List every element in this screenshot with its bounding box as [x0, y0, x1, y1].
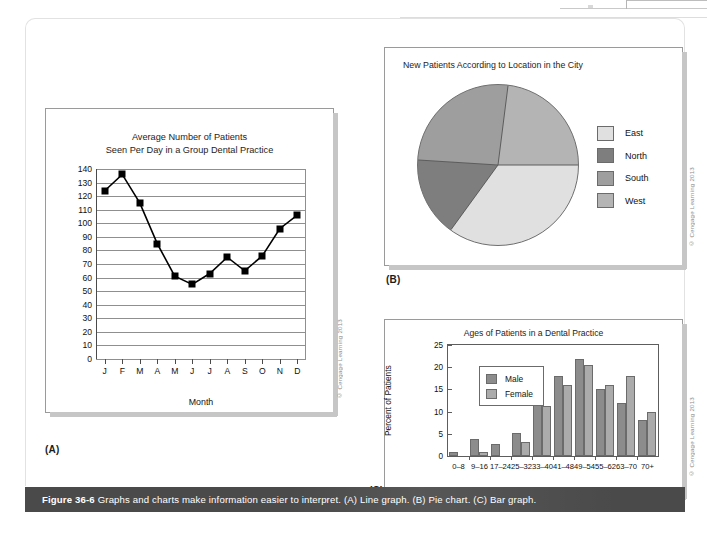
line-graph-x-label: J	[190, 366, 194, 376]
fragment-divider	[626, 0, 627, 9]
line-graph-y-tick: 130	[78, 178, 92, 188]
pie-legend-swatch	[597, 171, 614, 186]
bar-group	[638, 412, 656, 456]
line-graph-x-label: F	[120, 366, 125, 376]
figure-caption-text: Figure 36-6 Graphs and charts make infor…	[25, 494, 536, 505]
bar-group	[512, 433, 530, 456]
bar	[491, 444, 500, 456]
bar-chart-x-tickmark	[595, 456, 596, 460]
line-graph-x-label: A	[224, 366, 230, 376]
line-graph-data-point	[101, 187, 108, 194]
pie-chart-title: New Patients According to Location in th…	[403, 60, 583, 70]
panel-b-label: (B)	[386, 274, 400, 285]
line-graph-x-tick	[227, 359, 228, 364]
line-graph-y-tick: 0	[87, 354, 92, 364]
bar-chart-y-axis-label: Percent of Patients	[379, 344, 397, 457]
line-graph-data-point	[294, 212, 301, 219]
bar-chart-x-label: 70+	[641, 462, 654, 471]
bar-chart-x-label: 17–24	[490, 462, 511, 471]
line-graph-data-point	[154, 240, 161, 247]
line-graph-y-tick: 100	[78, 218, 92, 228]
bar-chart-y-tick: 15	[434, 385, 443, 394]
bar-chart-y-tick: 20	[434, 363, 443, 372]
bar-chart-title: Ages of Patients in a Dental Practice	[385, 328, 682, 338]
line-graph-y-tick: 70	[82, 259, 92, 269]
bar-chart-y-tickmark	[448, 345, 452, 346]
line-graph-y-tick: 140	[78, 164, 92, 174]
line-graph-y-tick: 40	[82, 300, 92, 310]
bar-legend-swatch	[486, 374, 497, 384]
bar-chart-x-tickmark	[574, 456, 575, 460]
bar-chart-x-tickmark	[469, 456, 470, 460]
line-graph-data-point	[224, 254, 231, 261]
pie-chart-graphic	[417, 84, 579, 246]
pie-legend-label: North	[625, 151, 647, 161]
figure-number: Figure 36-6	[42, 494, 95, 505]
bar-group	[617, 376, 635, 456]
page-above-fragment	[520, 0, 707, 14]
bar-chart-x-tickmark	[511, 456, 512, 460]
bar-group	[449, 452, 467, 456]
pie-legend-item: East	[597, 122, 649, 145]
line-graph-data-point	[206, 270, 213, 277]
line-graph-x-label: O	[259, 366, 266, 376]
bar-chart-legend: MaleFemale	[479, 366, 544, 406]
pie-legend-swatch	[597, 126, 614, 141]
panel-a-label: (A)	[45, 444, 59, 455]
line-graph-data-point	[259, 252, 266, 259]
line-graph-x-label: M	[171, 366, 178, 376]
bar	[575, 359, 584, 456]
bar-group	[470, 439, 488, 456]
copyright-bar-chart: © Cengage Learning 2013	[688, 397, 695, 477]
pie-chart-slice-dividers	[417, 84, 579, 246]
bar-chart-x-tickmark	[616, 456, 617, 460]
figure-caption-body: Graphs and charts make information easie…	[98, 494, 537, 505]
bar-chart-x-tickmark	[637, 456, 638, 460]
line-graph-x-tick	[157, 359, 158, 364]
bar-chart-x-label: 49–54	[574, 462, 595, 471]
line-graph-data-point	[189, 281, 196, 288]
line-graph-data-point	[241, 267, 248, 274]
bar	[470, 439, 479, 456]
bar-chart-y-tickmark	[448, 367, 452, 368]
bar	[647, 412, 656, 456]
bar-legend-label: Male	[505, 374, 523, 384]
line-graph-y-tick: 110	[78, 205, 92, 215]
bar	[479, 452, 488, 456]
line-graph-x-tick	[245, 359, 246, 364]
bar-chart-y-tickmark	[448, 412, 452, 413]
line-graph-x-tick	[105, 359, 106, 364]
pie-legend-item: West	[597, 190, 649, 213]
line-graph-y-tick: 20	[82, 327, 92, 337]
bar	[554, 376, 563, 456]
bar-chart-y-tick: 10	[434, 407, 443, 416]
line-graph-gridline	[96, 359, 306, 360]
bar-chart-x-label: 9–16	[471, 462, 488, 471]
pie-legend-item: South	[597, 167, 649, 190]
bar-group	[596, 385, 614, 456]
bar	[563, 385, 572, 456]
line-graph-x-label: M	[136, 366, 143, 376]
pie-legend-item: North	[597, 145, 649, 168]
bar-chart-x-tickmark	[553, 456, 554, 460]
bar-chart-x-label: 41–48	[553, 462, 574, 471]
fragment-rule-top	[627, 0, 707, 1]
line-graph-x-tick	[297, 359, 298, 364]
pie-chart-legend: EastNorthSouthWest	[597, 122, 649, 212]
line-graph-x-tick	[280, 359, 281, 364]
copyright-pie-chart: © Cengage Learning 2013	[688, 167, 695, 247]
bar-chart-y-tick: 25	[434, 341, 443, 350]
bar-chart-x-label: 0–8	[452, 462, 465, 471]
line-graph-y-tick: 50	[82, 286, 92, 296]
bar-chart-y-tickmark	[448, 389, 452, 390]
line-graph-x-tick	[210, 359, 211, 364]
page-sheet: Average Number of Patients Seen Per Day …	[25, 18, 685, 486]
bar	[626, 376, 635, 456]
bar-chart-x-label: 25–32	[511, 462, 532, 471]
line-graph-plot-area: 0102030405060708090100110120130140JFMAMJ…	[96, 169, 306, 359]
bar-legend-item: Female	[486, 386, 533, 401]
bar	[521, 442, 530, 456]
line-graph-series	[96, 169, 306, 359]
bar	[584, 365, 593, 456]
bar-legend-label: Female	[505, 389, 533, 399]
